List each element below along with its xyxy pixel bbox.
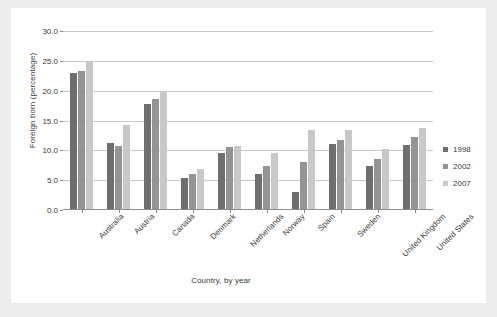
y-axis-tick-mark xyxy=(60,210,63,211)
bar-group xyxy=(211,31,248,210)
bar xyxy=(234,146,241,210)
legend: 199820022007 xyxy=(443,141,471,192)
bar xyxy=(337,140,344,210)
legend-label: 2007 xyxy=(453,179,471,188)
bar xyxy=(419,128,426,210)
bar-group xyxy=(137,31,174,210)
legend-swatch-icon xyxy=(443,147,448,152)
bar-group xyxy=(285,31,322,210)
bar xyxy=(382,149,389,210)
bar-group xyxy=(396,31,433,210)
bar xyxy=(345,130,352,210)
bar xyxy=(160,91,167,210)
plot-area: 0.05.010.015.020.025.030.0 xyxy=(63,31,433,210)
x-axis-category-label: Spain xyxy=(315,212,336,233)
y-axis-tick-label: 20.0 xyxy=(42,86,58,95)
bar xyxy=(308,130,315,210)
bar xyxy=(78,71,85,210)
bar xyxy=(255,174,262,210)
bar-group xyxy=(359,31,396,210)
y-axis-tick-label: 25.0 xyxy=(42,56,58,65)
y-axis-tick-label: 5.0 xyxy=(47,176,58,185)
x-axis-category-label: Austria xyxy=(132,212,156,236)
bar xyxy=(189,174,196,210)
bar xyxy=(152,99,159,210)
y-axis-tick-label: 30.0 xyxy=(42,27,58,36)
y-axis-tick-label: 10.0 xyxy=(42,146,58,155)
x-axis-category-label: Denmark xyxy=(208,212,237,241)
bar xyxy=(374,159,381,210)
y-axis-title: Foreign born (percentage) xyxy=(28,36,37,166)
bar xyxy=(329,144,336,210)
bar xyxy=(218,153,225,210)
bar xyxy=(263,166,270,210)
bar xyxy=(292,192,299,210)
x-axis-category-label: Norway xyxy=(280,212,306,238)
bar xyxy=(226,147,233,210)
chart-panel: Foreign born (percentage) 0.05.010.015.0… xyxy=(11,8,486,303)
legend-label: 1998 xyxy=(453,145,471,154)
bar-group xyxy=(248,31,285,210)
bar-group xyxy=(322,31,359,210)
bar xyxy=(70,73,77,210)
bars-layer xyxy=(63,31,433,210)
legend-swatch-icon xyxy=(443,181,448,186)
bar-group xyxy=(174,31,211,210)
y-axis-tick-label: 15.0 xyxy=(42,116,58,125)
bar xyxy=(144,104,151,210)
bar-group xyxy=(63,31,100,210)
legend-item: 2007 xyxy=(443,175,471,192)
x-axis-category-label: Canada xyxy=(170,212,196,238)
bar xyxy=(403,145,410,210)
legend-item: 2002 xyxy=(443,158,471,175)
bar xyxy=(107,143,114,210)
legend-item: 1998 xyxy=(443,141,471,158)
y-axis-tick-label: 0.0 xyxy=(47,206,58,215)
bar-group xyxy=(100,31,137,210)
bar xyxy=(411,137,418,210)
bar xyxy=(300,162,307,210)
x-axis-category-label: Australia xyxy=(97,212,125,240)
x-axis-category-label: Netherlands xyxy=(248,212,285,249)
legend-swatch-icon xyxy=(443,164,448,169)
bar xyxy=(181,178,188,210)
figure-root: Foreign born (percentage) 0.05.010.015.0… xyxy=(0,0,497,317)
x-axis-line xyxy=(63,209,433,210)
bar xyxy=(123,125,130,210)
x-axis-category-labels: AustraliaAustriaCanadaDenmarkNetherlands… xyxy=(63,212,433,274)
x-axis-title: Country, by year xyxy=(11,276,431,285)
legend-label: 2002 xyxy=(453,162,471,171)
x-axis-category-label: Sweden xyxy=(355,212,382,239)
bar xyxy=(86,61,93,210)
bar xyxy=(197,169,204,210)
bar xyxy=(366,166,373,210)
bar xyxy=(115,146,122,210)
bar xyxy=(271,153,278,210)
